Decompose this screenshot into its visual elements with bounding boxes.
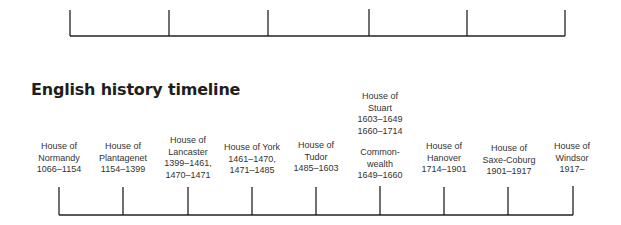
- house-dates: 1485–1603: [281, 163, 351, 175]
- house-dates: 1471–1485: [214, 165, 290, 177]
- house-name-line2: Windsor: [537, 153, 607, 165]
- house-name-line1: House of: [474, 143, 544, 155]
- house-name-line1: House of York: [214, 142, 290, 154]
- commonwealth-line1: Common-: [345, 147, 415, 159]
- house-dates: 1714–1901: [409, 164, 479, 176]
- house-label-stuart: House of Stuart 1603–1649 1660–1714 Comm…: [345, 91, 415, 182]
- timeline-axes: [0, 0, 621, 225]
- house-name-line2: Hanover: [409, 153, 479, 165]
- house-label-windsor: House of Windsor 1917–: [537, 141, 607, 176]
- house-name-line1: House of: [345, 91, 415, 103]
- house-label-plantagenet: House of Plantagenet 1154–1399: [88, 141, 158, 176]
- house-name-line2: Lancaster: [153, 147, 223, 159]
- house-name-line2: Plantagenet: [88, 153, 158, 165]
- house-name-line1: House of: [281, 140, 351, 152]
- house-dates: 1603–1649: [345, 114, 415, 126]
- house-dates: 1917–: [537, 164, 607, 176]
- house-dates: 1901–1917: [474, 166, 544, 178]
- house-label-normandy: House of Normandy 1066–1154: [24, 141, 94, 176]
- house-label-tudor: House of Tudor 1485–1603: [281, 140, 351, 175]
- commonwealth-line2: wealth: [345, 159, 415, 171]
- house-dates: 1461–1470,: [214, 154, 290, 166]
- house-dates: 1066–1154: [24, 164, 94, 176]
- house-name-line2: Stuart: [345, 103, 415, 115]
- house-dates: 1660–1714: [345, 126, 415, 138]
- house-label-york: House of York 1461–1470, 1471–1485: [214, 142, 290, 177]
- house-name-line1: House of: [537, 141, 607, 153]
- house-name-line2: Normandy: [24, 153, 94, 165]
- house-label-saxe-coburg: House of Saxe-Coburg 1901–1917: [474, 143, 544, 178]
- bottom-timeline: [59, 186, 573, 215]
- house-name-line1: House of: [409, 141, 479, 153]
- house-name-line1: House of: [24, 141, 94, 153]
- house-name-line2: Tudor: [281, 152, 351, 164]
- house-dates: 1154–1399: [88, 164, 158, 176]
- top-timeline: [70, 9, 565, 36]
- label-spacer: [345, 137, 415, 147]
- house-label-hanover: House of Hanover 1714–1901: [409, 141, 479, 176]
- house-name-line1: House of: [88, 141, 158, 153]
- house-dates: 1470–1471: [153, 170, 223, 182]
- house-name-line1: House of: [153, 135, 223, 147]
- house-name-line2: Saxe-Coburg: [474, 155, 544, 167]
- house-dates: 1399–1461,: [153, 158, 223, 170]
- commonwealth-dates: 1649–1660: [345, 170, 415, 182]
- page-title: English history timeline: [31, 80, 240, 99]
- house-label-lancaster: House of Lancaster 1399–1461, 1470–1471: [153, 135, 223, 181]
